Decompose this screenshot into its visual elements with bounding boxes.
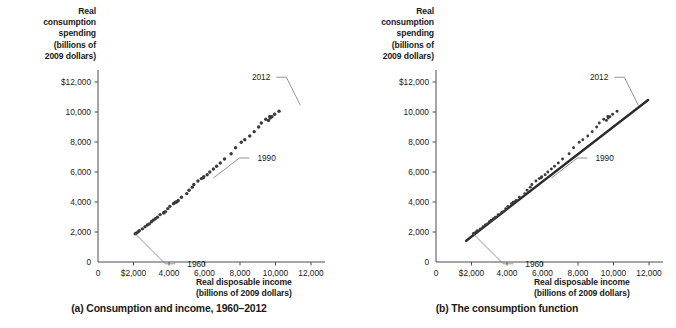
data-point [270,115,273,118]
annotation-label-2012: 2012 [590,72,609,82]
data-point [158,213,161,216]
panel-b-x-title-line-1: (billions of 2009 dollars) [534,288,676,299]
x-tick-label: $2,000 [121,268,147,278]
annotation-label-1960: 1960 [187,259,206,269]
scatter-series [472,110,619,235]
data-point [205,173,208,176]
panel-a-x-title-line-1: (billions of 2009 dollars) [196,288,346,299]
y-tick-label: $12,000 [399,77,429,87]
annotation-label-2012: 2012 [252,72,271,82]
data-point [550,168,553,171]
data-point [192,183,195,186]
data-point [568,152,571,155]
panel-a-x-axis-title: Real disposable income(billions of 2009 … [196,277,346,299]
data-point [212,167,215,170]
data-point [202,176,205,179]
data-point [257,125,260,128]
data-point [602,118,605,121]
data-point [185,192,188,195]
data-point [273,113,276,116]
x-tick-label: 0 [434,268,439,278]
data-point [544,173,547,176]
data-point [234,146,237,149]
data-point [595,126,598,129]
data-point [497,213,500,216]
data-point [164,210,167,213]
panel-a-plot: 02,0004,0006,0008,00010,000$12,0000$2,00… [0,0,338,300]
y-tick-label: 8,000 [408,137,429,147]
data-point [476,229,479,232]
data-point [482,225,485,228]
y-tick-label: 0 [86,257,91,267]
data-point [611,113,614,116]
data-point [546,171,549,174]
data-point [277,110,280,113]
y-tick-label: 6,000 [408,167,429,177]
annotation-leader-1990 [213,158,249,178]
data-point [609,115,612,118]
data-point [581,138,584,141]
data-point [557,162,560,165]
panel-b-caption: (b) The consumption function [338,303,676,314]
panel-b-x-axis-title: Real disposable income(billions of 2009 … [534,277,676,299]
data-point [248,134,251,137]
y-tick-label: 10,000 [66,107,92,117]
data-point [506,205,509,208]
annotation-label-1960: 1960 [525,259,544,269]
data-point [515,199,518,202]
data-point [578,141,581,144]
data-point [616,110,619,113]
data-point [138,229,141,232]
annotation-leader-2012 [614,77,638,105]
data-point [223,157,226,160]
data-point [267,119,270,122]
data-point [529,186,532,189]
data-point [494,216,497,219]
panel-a: Realconsumptionspending(billions of2009 … [0,0,338,328]
x-tick-label: 4,000 [497,268,518,278]
data-point [180,196,183,199]
y-tick-label: 10,000 [404,107,430,117]
y-tick-label: 4,000 [70,197,91,207]
data-point [196,179,199,182]
data-point [486,222,489,225]
data-point [586,135,589,138]
data-point [229,152,232,155]
annotation-leader-1960 [135,234,175,264]
y-tick-label: 4,000 [408,197,429,207]
annotation-leader-2012 [276,77,300,105]
data-point [534,180,537,183]
panel-a-caption: (a) Consumption and income, 1960–2012 [0,303,338,314]
data-point [219,161,222,164]
y-tick-label: 2,000 [408,227,429,237]
annotation-leader-1960 [473,234,513,264]
panel-b-plot: 02,0004,0006,0008,00010,000$12,0000$2,00… [338,0,676,300]
data-point [572,146,575,149]
data-point [260,121,263,124]
data-point [518,196,521,199]
annotation-label-1990: 1990 [595,153,614,163]
data-point [215,165,218,168]
data-point [553,165,556,168]
data-point [530,183,533,186]
data-point [523,192,526,195]
y-tick-label: 8,000 [70,137,91,147]
data-point [168,205,171,208]
data-point [243,138,246,141]
data-point [540,176,543,179]
data-point [479,227,482,230]
data-point [240,141,243,144]
consumption-function-figure: Realconsumptionspending(billions of2009 … [0,0,676,328]
panel-a-x-title-line-0: Real disposable income [196,277,346,288]
data-point [561,158,564,161]
data-point [504,207,507,210]
data-point [187,189,190,192]
panel-b-x-title-line-0: Real disposable income [534,277,676,288]
data-point [598,122,601,125]
data-point [141,227,144,230]
data-point [502,210,505,213]
data-point [208,170,211,173]
data-point [253,130,256,133]
x-tick-label: 0 [96,268,101,278]
data-point [526,189,529,192]
